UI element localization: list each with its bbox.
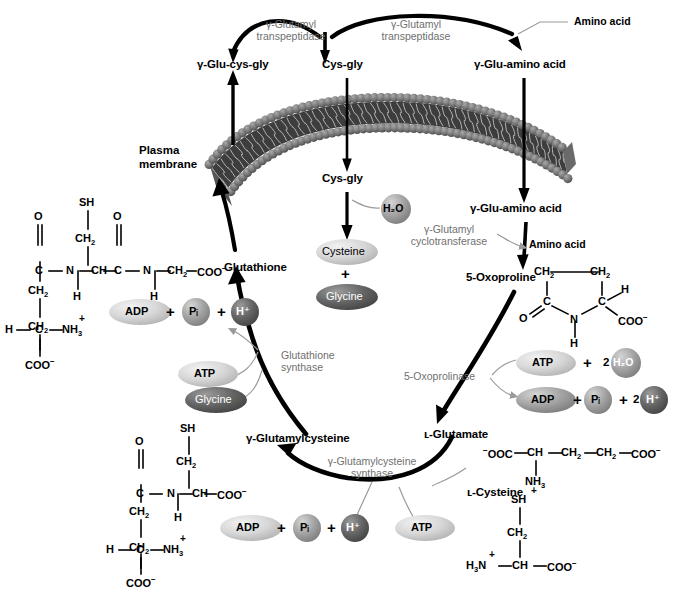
label-glu-amino-acid-top: γ-Glu-amino acid — [474, 58, 566, 71]
bubble-label-adp-oxp: ADP — [531, 393, 554, 406]
label-amino-acid-top: Amino acid — [574, 15, 631, 27]
arrow-gluaminoacid-to-oxoproline — [524, 222, 526, 258]
label-amino-acid-released: Amino acid — [529, 238, 586, 250]
bubble-label-pi-oxp: Pᵢ — [591, 393, 600, 406]
plus-oxp-3: + — [619, 391, 628, 408]
label-glu-cys-gly: γ-Glu-cys-gly — [197, 58, 269, 71]
connector-h2o-to-cysgly — [352, 200, 380, 208]
label-plasma-membrane: Plasma membrane — [139, 144, 197, 172]
enzyme-gamma-glutamyl-cyclotransferase: γ-Glutamyl cyclotransferase — [398, 223, 500, 247]
bubble-label-h-gcs: H⁺ — [346, 521, 360, 534]
bubble-label-pi-gcs: Pᵢ — [300, 521, 309, 534]
arrow-oxoproline-to-glutamate — [444, 292, 514, 410]
bubble-label-cysteine: Cysteine — [322, 245, 365, 258]
bubble-label-glycine-top: Glycine — [326, 290, 363, 303]
bubble-label-atp-gsh: ATP — [194, 367, 215, 380]
connector-atp-gcs — [399, 487, 414, 518]
plus-gsh-1: + — [166, 303, 175, 320]
bubble-label-pi-gsh: Pᵢ — [189, 305, 198, 318]
enzyme-gamma-glutamyl-transpeptidase-left: γ-Glutamyl transpeptidase — [241, 18, 341, 42]
plus-oxp-2: + — [573, 391, 582, 408]
bubble-label-atp-oxp: ATP — [532, 356, 553, 369]
bubble-label-atp-gcs: ATP — [411, 521, 432, 534]
connector-atp-oxp-in — [492, 360, 516, 375]
bubble-label-adp-gsh: ADP — [125, 305, 148, 318]
label-glutathione: Glutathione — [224, 261, 287, 274]
connector-amino-acid-top — [518, 22, 568, 34]
gamma-glutamyl-cycle-diagram: γ-Glutamyl transpeptidase γ-Glutamyl tra… — [0, 0, 675, 595]
bubble-label-h-oxp: H⁺ — [646, 393, 660, 406]
bubble-label-adp-gcs: ADP — [236, 521, 259, 534]
enzyme-5-oxoprolinase: 5-Oxoprolinase — [404, 370, 475, 382]
label-5-oxoproline: 5-Oxoproline — [466, 271, 536, 284]
plus-cysteine-glycine: + — [341, 265, 350, 282]
plus-gcs-1: + — [277, 519, 286, 536]
bubble-label-glycine-gsh: Glycine — [195, 393, 232, 406]
label-l-glutamate: ʟ-Glutamate — [424, 428, 488, 441]
label-cys-gly-top: Cys-gly — [322, 58, 363, 71]
plus-oxp-1: + — [583, 354, 592, 371]
label-cys-gly-inner: Cys-gly — [322, 172, 363, 185]
plus-gsh-2: + — [217, 303, 226, 320]
count-two-h2o-oxp: 2 — [603, 356, 609, 369]
label-gamma-glutamylcysteine: γ-Glutamylcysteine — [246, 432, 350, 445]
enzyme-gamma-glutamylcysteine-synthase: γ-Glutamylcysteine synthase — [308, 455, 436, 479]
bubble-label-h-gsh: H⁺ — [236, 305, 250, 318]
bubble-label-h2o-oxp: H₂O — [613, 356, 633, 368]
bubble-label-h2o-top: H₂O — [383, 202, 403, 214]
enzyme-glutathione-synthase: Glutathione synthase — [281, 349, 365, 373]
label-glu-amino-acid-inner: γ-Glu-amino acid — [470, 202, 562, 215]
connector-cysteine-in — [432, 468, 466, 486]
enzyme-gamma-glutamyl-transpeptidase-right: γ-Glutamyl transpeptidase — [366, 18, 466, 42]
count-two-h-oxp: 2 — [633, 393, 639, 406]
plus-gcs-2: + — [327, 519, 336, 536]
connector-oxp-products — [490, 378, 514, 396]
connector-amino-acid-released — [497, 234, 523, 247]
